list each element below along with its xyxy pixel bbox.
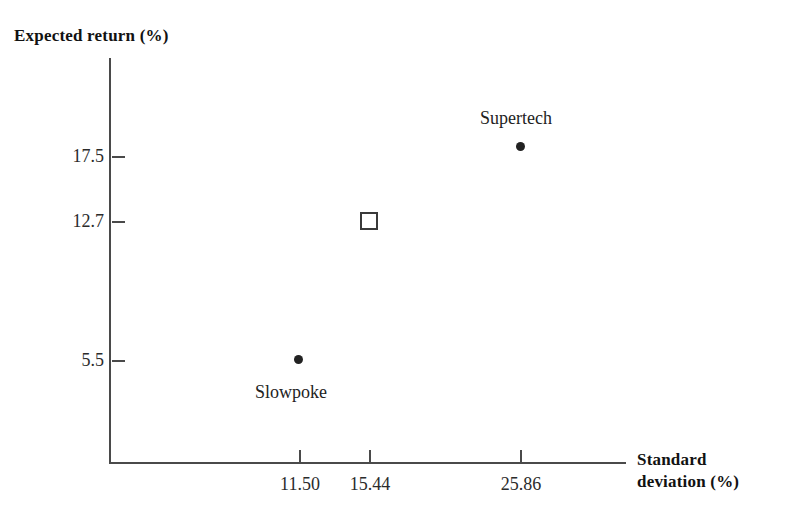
x-axis-tick-label: 15.44: [331, 474, 409, 495]
x-axis-title: Standard deviation (%): [637, 449, 739, 493]
x-axis-tick-mark: [520, 450, 522, 463]
y-axis-tick-label: 12.7: [44, 211, 104, 232]
data-point-label-supertech: Supertech: [480, 108, 552, 129]
x-axis-line: [109, 462, 626, 464]
data-point-marker-portfolio[interactable]: [360, 212, 378, 230]
data-point-marker-slowpoke[interactable]: [294, 355, 303, 364]
y-axis-line: [109, 58, 111, 464]
y-axis-tick-label: 5.5: [44, 350, 104, 371]
x-axis-tick-label: 11.50: [261, 474, 339, 495]
chart-figure: Expected return (%) Standard deviation (…: [0, 0, 792, 521]
x-axis-tick-mark: [299, 450, 301, 463]
y-axis-tick-mark: [112, 156, 125, 158]
x-axis-tick-label: 25.86: [482, 474, 560, 495]
x-axis-tick-mark: [369, 450, 371, 463]
y-axis-tick-mark: [112, 360, 125, 362]
y-axis-tick-label: 17.5: [44, 146, 104, 167]
y-axis-tick-mark: [112, 221, 125, 223]
data-point-label-slowpoke: Slowpoke: [255, 382, 327, 403]
y-axis-title: Expected return (%): [14, 26, 169, 46]
data-point-marker-supertech[interactable]: [516, 142, 525, 151]
